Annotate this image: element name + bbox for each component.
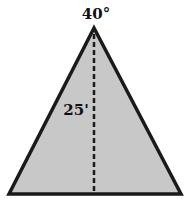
apex-angle-label: 40° <box>82 5 110 23</box>
triangle-diagram: 40° 25' <box>0 0 189 199</box>
height-label: 25' <box>63 101 88 119</box>
